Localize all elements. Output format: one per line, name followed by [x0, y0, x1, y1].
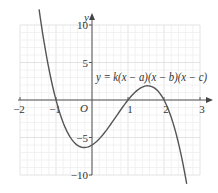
cubic-graph: −2−1123105−5−10 y O y = k(x − a)(x − b)(…: [0, 0, 218, 193]
cubic-curve: [39, 9, 187, 184]
axes: [18, 13, 213, 175]
x-tick-label: 1: [127, 103, 133, 115]
y-axis-label: y: [83, 11, 89, 23]
y-tick-label: 5: [83, 57, 89, 69]
x-tick-label: 3: [199, 103, 205, 115]
equation-label: y = k(x − a)(x − b)(x − c): [95, 71, 207, 84]
y-axis-arrow-icon: [89, 13, 95, 20]
origin-label: O: [80, 102, 88, 114]
y-tick-label: −10: [71, 169, 89, 181]
x-axis-arrow-icon: [206, 97, 213, 103]
y-tick-label: −5: [76, 132, 88, 144]
x-tick-label: −2: [13, 103, 25, 115]
